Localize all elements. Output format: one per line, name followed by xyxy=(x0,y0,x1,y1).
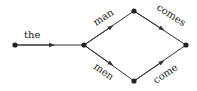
edge-men: men xyxy=(84,45,134,82)
edge-comes: comes xyxy=(134,1,188,45)
node-top xyxy=(131,8,136,13)
edge-label-men: men xyxy=(92,61,117,83)
edge-label-comes: comes xyxy=(155,1,188,28)
node-end xyxy=(183,42,188,47)
edge-label-man: man xyxy=(91,6,116,27)
edge-label-the: the xyxy=(24,29,40,40)
node-bottom xyxy=(131,78,136,83)
node-start xyxy=(12,42,17,47)
edge-come: come xyxy=(134,45,186,86)
edge-the: the xyxy=(15,29,84,45)
edge-man: man xyxy=(84,6,134,45)
word-lattice-diagram: the man men comes come xyxy=(0,0,197,91)
edge-label-come: come xyxy=(151,61,180,85)
node-branch xyxy=(81,42,86,47)
